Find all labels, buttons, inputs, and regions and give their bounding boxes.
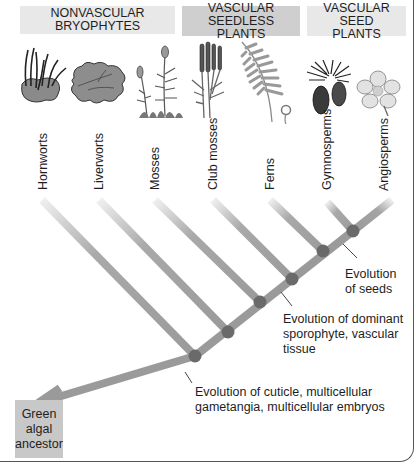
- node-5: [317, 245, 330, 258]
- branch-ferns: [270, 200, 323, 251]
- branch-liverworts: [99, 200, 228, 332]
- green-algal-ancestor-box: Green algal ancestor: [15, 400, 63, 458]
- node-6: [347, 225, 360, 238]
- branch-mosses: [155, 200, 260, 302]
- node-1: [189, 350, 202, 363]
- node-3: [254, 296, 267, 309]
- leader-seeds: [343, 244, 357, 258]
- node-4: [286, 273, 299, 286]
- annotation-text: Evolution of dominant sporophyte, vascul…: [283, 312, 403, 356]
- annotation-seeds: Evolution of seeds: [345, 267, 410, 297]
- leader-cuticle: [185, 372, 192, 383]
- leader-vascular: [281, 292, 292, 306]
- annotation-vascular: Evolution of dominant sporophyte, vascul…: [283, 312, 411, 357]
- trunk: [38, 356, 195, 403]
- node-2: [222, 326, 235, 339]
- branch-angiosperms: [353, 200, 392, 231]
- annotation-text: Evolution of seeds: [345, 267, 396, 296]
- ancestor-label: Green algal ancestor: [15, 407, 63, 452]
- annotation-text: Evolution of cuticle, multicellular game…: [195, 385, 385, 414]
- annotation-cuticle: Evolution of cuticle, multicellular game…: [195, 385, 405, 415]
